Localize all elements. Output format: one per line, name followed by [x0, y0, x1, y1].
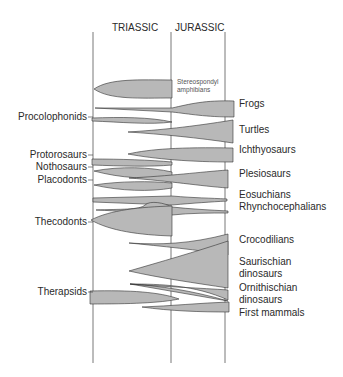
right-label: dinosaurs [239, 268, 282, 279]
lineage-stereospondyl-amphibians [94, 80, 172, 98]
left-label: Nothosaurs [36, 161, 87, 172]
lineage-turtles [128, 120, 233, 143]
right-label: dinosaurs [239, 294, 282, 305]
inner-label-line2: amphibians [177, 86, 210, 94]
left-label: Placodonts [38, 174, 87, 185]
lineage-frogs [95, 101, 234, 117]
period-label-triassic: TRIASSIC [112, 22, 158, 33]
left-label: Procolophonids [18, 111, 87, 122]
right-label: Ornithischian [239, 282, 297, 293]
right-label: Saurischian [239, 256, 291, 267]
inner-label-line1: Stereospondyl [177, 78, 219, 86]
right-label: Plesiosaurs [239, 168, 291, 179]
lineage-procolophonids [92, 117, 172, 123]
left-label: Therapsids [38, 286, 87, 297]
lineage-placodonts [94, 182, 172, 191]
right-label: Frogs [239, 98, 265, 109]
right-label: Ichthyosaurs [239, 144, 296, 155]
left-label: Protorosaurs [30, 149, 87, 160]
lineage-chart [0, 0, 343, 377]
evolution-diagram: TRIASSICJURASSICProcolophonidsProtorosau… [0, 0, 343, 377]
lineage-protorosaurs [92, 159, 172, 166]
left-label: Thecodonts [35, 216, 87, 227]
right-label: Rhynchocephalians [239, 201, 326, 212]
right-label: First mammals [239, 307, 305, 318]
period-label-jurassic: JURASSIC [175, 22, 224, 33]
right-label: Eosuchians [239, 189, 291, 200]
right-label: Turtles [239, 124, 269, 135]
right-label: Crocodilians [239, 234, 294, 245]
lineage-therapsids [90, 291, 179, 304]
lineage-first-mammals [142, 302, 229, 312]
